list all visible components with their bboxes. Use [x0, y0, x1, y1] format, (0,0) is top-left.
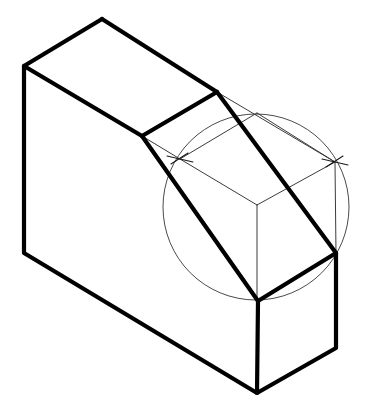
isometric-block-drawing — [0, 0, 366, 413]
edge-front-vertical — [257, 301, 258, 393]
technical-drawing-canvas — [0, 0, 366, 413]
canvas-background — [0, 0, 366, 413]
